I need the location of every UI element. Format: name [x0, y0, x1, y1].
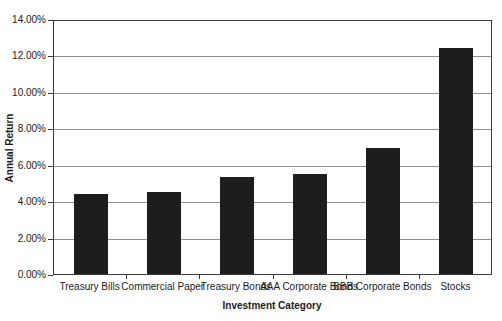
gridline	[54, 129, 491, 130]
x-tick-mark	[273, 275, 274, 279]
gridline	[54, 202, 491, 203]
y-tick-mark	[48, 202, 53, 203]
y-tick-label: 4.00%	[0, 197, 46, 207]
y-tick-mark	[48, 20, 53, 21]
bar-stocks	[439, 48, 473, 274]
gridline	[54, 56, 491, 57]
y-tick-label: 2.00%	[0, 234, 46, 244]
bar-commercial-paper	[147, 192, 181, 274]
bar-treasury-bills	[74, 194, 108, 274]
y-tick-label: 8.00%	[0, 124, 46, 134]
gridline	[54, 93, 491, 94]
y-tick-mark	[48, 56, 53, 57]
x-tick-mark	[126, 275, 127, 279]
y-tick-mark	[48, 129, 53, 130]
gridline	[54, 239, 491, 240]
x-tick-mark	[199, 275, 200, 279]
y-tick-mark	[48, 166, 53, 167]
plot-area	[53, 20, 492, 275]
y-tick-label: 6.00%	[0, 161, 46, 171]
x-axis-title: Investment Category	[223, 300, 322, 311]
y-tick-label: 12.00%	[0, 51, 46, 61]
x-tick-mark	[419, 275, 420, 279]
bar-aaa-corporate-bonds	[293, 174, 327, 274]
gridline	[54, 166, 491, 167]
y-tick-mark	[48, 275, 53, 276]
x-category-label: Stocks	[440, 281, 470, 292]
bar-bbb-corporate-bonds	[366, 148, 400, 274]
x-category-label: Commercial Paper	[121, 281, 204, 292]
y-tick-mark	[48, 93, 53, 94]
y-tick-label: 0.00%	[0, 270, 46, 280]
y-tick-mark	[48, 239, 53, 240]
y-tick-label: 14.00%	[0, 15, 46, 25]
y-tick-label: 10.00%	[0, 88, 46, 98]
bar-treasury-bonds	[220, 177, 254, 274]
bar-chart: Annual Return 0.00%2.00%4.00%6.00%8.00%1…	[0, 0, 502, 321]
x-category-label: Treasury Bills	[59, 281, 119, 292]
x-tick-mark	[346, 275, 347, 279]
x-category-label: BBB Corporate Bonds	[333, 281, 431, 292]
